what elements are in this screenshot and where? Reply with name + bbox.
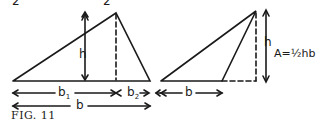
triangle-diagram bbox=[0, 0, 321, 122]
top-mark-right: 2 bbox=[103, 0, 111, 7]
top-mark-left: 2 bbox=[12, 0, 20, 7]
base1-subscript: 1 bbox=[66, 93, 70, 101]
base-label: b bbox=[76, 99, 84, 111]
base2-label: b2 bbox=[127, 86, 139, 98]
right-base-label: b bbox=[185, 86, 193, 98]
right-height-label: h bbox=[264, 36, 272, 48]
area-formula: A=½hb bbox=[274, 48, 315, 59]
right-triangle bbox=[161, 11, 256, 81]
left-height-label: h bbox=[79, 48, 87, 60]
base2-letter: b bbox=[127, 85, 135, 99]
base1-letter: b bbox=[58, 85, 66, 99]
base2-subscript: 2 bbox=[135, 93, 139, 101]
figure-caption: FIG. 11 bbox=[11, 109, 56, 122]
base1-label: b1 bbox=[58, 86, 70, 98]
